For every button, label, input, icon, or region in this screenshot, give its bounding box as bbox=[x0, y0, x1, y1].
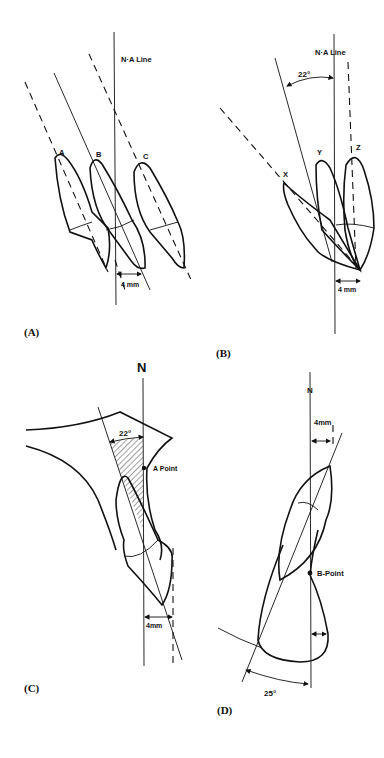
tooth-y-label: Y bbox=[317, 148, 322, 157]
n-line bbox=[310, 372, 311, 688]
na-line bbox=[334, 34, 335, 334]
tooth-c bbox=[134, 163, 184, 268]
na-line-label: N·A Line bbox=[315, 48, 346, 57]
angle-b: 22° bbox=[298, 70, 310, 79]
tooth-c-label: C bbox=[143, 152, 149, 161]
tooth-x-label: X bbox=[283, 170, 288, 179]
maxilla-outline bbox=[26, 412, 172, 560]
panel-d: N 4mm B-Point 25° (D) bbox=[217, 372, 344, 717]
mandibular-plane bbox=[218, 628, 262, 648]
panel-label-a: (A) bbox=[24, 326, 40, 339]
palate-outline bbox=[26, 446, 116, 550]
measurement-a: 4 mm bbox=[121, 281, 139, 288]
axis-a bbox=[25, 82, 108, 272]
measurement-c: 4mm bbox=[146, 622, 162, 629]
panel-label-d: (D) bbox=[217, 704, 233, 717]
panel-label-c: (C) bbox=[24, 682, 40, 695]
measurement-d: 4mm bbox=[314, 418, 332, 427]
axis-z bbox=[348, 62, 356, 268]
na-line-label: N·A Line bbox=[121, 55, 152, 64]
symphysis-outline bbox=[258, 545, 328, 662]
hatched-region bbox=[110, 437, 143, 530]
panel-label-b: (B) bbox=[216, 347, 231, 360]
a-point-marker bbox=[142, 466, 146, 470]
angle-c: 22° bbox=[119, 429, 131, 438]
panel-c: N 22° A Point 4mm (C) bbox=[24, 360, 182, 695]
measurement-b: 4 mm bbox=[338, 286, 356, 293]
a-point-label: A Point bbox=[153, 465, 178, 472]
tooth-a bbox=[55, 154, 110, 268]
tooth-z bbox=[344, 158, 374, 270]
incisor-d bbox=[279, 466, 332, 580]
tooth-z-label: Z bbox=[356, 143, 361, 152]
n-label: N bbox=[137, 360, 146, 375]
angle-d: 25° bbox=[264, 689, 276, 698]
n-line bbox=[143, 378, 144, 666]
figure-canvas: N·A Line A B C 4 mm (A) N·A Line 22° X bbox=[0, 0, 384, 758]
tooth-b-label: B bbox=[96, 150, 102, 159]
tooth-a-label: A bbox=[59, 148, 65, 157]
panel-a: N·A Line A B C 4 mm (A) bbox=[24, 32, 192, 339]
angle-arc-d bbox=[246, 670, 308, 684]
panel-b: N·A Line 22° X Y Z 4 mm (B) bbox=[216, 34, 374, 360]
b-point-label: B-Point bbox=[317, 569, 344, 578]
na-line bbox=[114, 32, 116, 305]
b-point-marker bbox=[308, 571, 313, 576]
